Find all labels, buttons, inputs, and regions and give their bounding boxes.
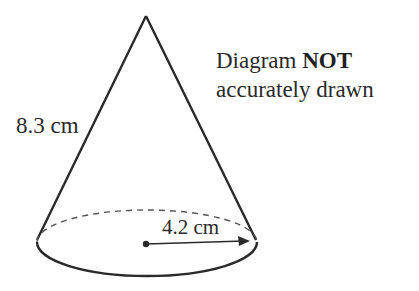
note-line-2: accurately drawn	[216, 75, 374, 104]
radius-label: 4.2 cm	[162, 215, 219, 240]
slant-height-label: 8.3 cm	[16, 113, 79, 139]
base-hidden-edge	[37, 210, 257, 242]
radius-line	[146, 241, 244, 244]
note-prefix: Diagram	[216, 48, 302, 73]
cone-diagram: 8.3 cm 4.2 cm Diagram NOT accurately dra…	[0, 0, 419, 291]
not-to-scale-note: Diagram NOT accurately drawn	[216, 46, 374, 104]
base-front-edge	[37, 242, 257, 276]
cone-figure	[0, 0, 419, 291]
radius-arrowhead-icon	[238, 236, 250, 246]
note-line-1: Diagram NOT	[216, 46, 374, 75]
note-bold-not: NOT	[302, 48, 352, 73]
